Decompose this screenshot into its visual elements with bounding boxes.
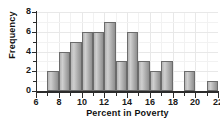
gridline-horizontal — [36, 22, 218, 23]
x-tick-mark — [70, 93, 71, 96]
histogram-bar — [93, 32, 104, 91]
y-tick-mark — [33, 61, 36, 62]
y-tick-mark — [33, 42, 36, 43]
x-tick-label: 18 — [162, 97, 184, 107]
histogram-bar — [161, 61, 172, 91]
y-tick-label: 4 — [17, 47, 31, 56]
histogram-bar — [59, 52, 70, 92]
x-tick-mark — [93, 93, 94, 96]
x-tick-label: 8 — [48, 97, 70, 107]
x-tick-label: 20 — [184, 97, 206, 107]
y-tick-mark — [32, 52, 36, 53]
y-tick-label: 6 — [17, 27, 31, 36]
histogram-bar — [184, 71, 195, 91]
x-tick-label: 22 — [207, 97, 220, 107]
histogram-bar — [116, 61, 127, 91]
histogram-chart: 6810121416182022 02468 Percent in Povert… — [0, 0, 220, 123]
y-tick-mark — [33, 22, 36, 23]
x-tick-mark — [207, 93, 208, 96]
histogram-bar — [47, 71, 58, 91]
y-tick-mark — [32, 12, 36, 13]
x-tick-mark — [47, 93, 48, 96]
y-axis-line — [36, 11, 37, 92]
x-tick-label: 14 — [116, 97, 138, 107]
x-tick-label: 10 — [71, 97, 93, 107]
y-tick-label: 8 — [17, 7, 31, 16]
y-tick-mark — [33, 81, 36, 82]
x-tick-label: 16 — [139, 97, 161, 107]
y-axis-label: Frequency — [7, 0, 17, 71]
histogram-bar — [207, 81, 218, 91]
y-tick-mark — [32, 71, 36, 72]
x-tick-label: 6 — [25, 97, 47, 107]
x-tick-mark — [138, 93, 139, 96]
x-axis-label: Percent in Poverty — [36, 108, 219, 118]
x-tick-mark — [161, 93, 162, 96]
histogram-bar — [104, 22, 115, 91]
y-tick-label: 2 — [17, 66, 31, 75]
histogram-bar — [127, 32, 138, 91]
histogram-bar — [138, 61, 149, 91]
histogram-bar — [150, 71, 161, 91]
x-tick-mark — [116, 93, 117, 96]
y-tick-mark — [32, 91, 36, 92]
histogram-bar — [70, 42, 81, 91]
gridline-horizontal — [36, 12, 218, 13]
plot-area — [36, 12, 218, 91]
x-tick-label: 12 — [93, 97, 115, 107]
y-tick-mark — [32, 32, 36, 33]
y-tick-label: 0 — [17, 86, 31, 95]
histogram-bar — [82, 32, 93, 91]
x-tick-mark — [184, 93, 185, 96]
